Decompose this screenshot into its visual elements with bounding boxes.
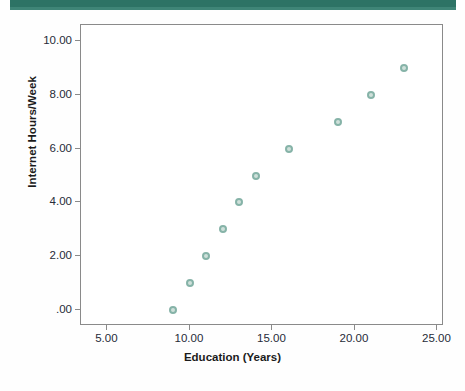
x-tick-mark xyxy=(354,325,355,330)
x-tick-mark xyxy=(436,325,437,330)
data-point xyxy=(252,172,260,180)
scatter-plot-figure: Internet Hours/Week Education (Years) .0… xyxy=(0,10,465,391)
plot-area xyxy=(80,24,443,325)
data-point xyxy=(400,64,408,72)
x-axis-title: Education (Years) xyxy=(0,351,465,363)
x-tick-mark xyxy=(106,325,107,330)
data-point xyxy=(186,279,194,287)
data-point xyxy=(235,198,243,206)
data-point xyxy=(285,145,293,153)
data-point xyxy=(169,306,177,314)
y-tick-label: 8.00 xyxy=(26,88,72,100)
y-tick-label: 6.00 xyxy=(26,142,72,154)
data-point xyxy=(202,252,210,260)
x-tick-label: 20.00 xyxy=(319,332,389,344)
data-point xyxy=(219,225,227,233)
x-tick-label: 25.00 xyxy=(401,332,465,344)
data-point xyxy=(367,91,375,99)
y-tick-label: 4.00 xyxy=(26,195,72,207)
x-tick-mark xyxy=(271,325,272,330)
y-tick-label: .00 xyxy=(26,303,72,315)
y-tick-label: 2.00 xyxy=(26,249,72,261)
x-tick-label: 5.00 xyxy=(71,332,141,344)
y-tick-label: 10.00 xyxy=(26,34,72,46)
y-axis-title: Internet Hours/Week xyxy=(26,52,38,212)
data-point xyxy=(334,118,342,126)
x-tick-label: 10.00 xyxy=(154,332,224,344)
x-tick-mark xyxy=(189,325,190,330)
x-tick-label: 15.00 xyxy=(236,332,306,344)
